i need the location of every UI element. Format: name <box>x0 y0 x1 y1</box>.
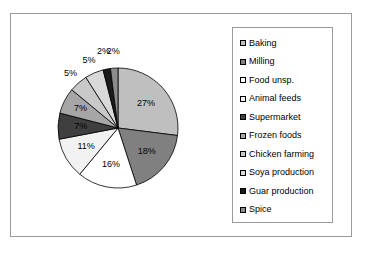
pie-slice-value-label: 18% <box>138 147 156 156</box>
chart-frame: 27%18%16%11%7%7%5%5%2%2% BakingMillingFo… <box>10 13 352 237</box>
legend-item[interactable]: Supermarket <box>240 108 332 127</box>
legend-item-label: Baking <box>249 39 277 48</box>
chart-legend: BakingMillingFood unsp.Animal feedsSuper… <box>232 27 333 223</box>
pie-slice-value-label: 11% <box>77 142 94 151</box>
legend-item[interactable]: Milling <box>240 53 332 72</box>
legend-item[interactable]: Frozen foods <box>240 127 332 146</box>
legend-item[interactable]: Chicken farming <box>240 145 332 164</box>
legend-item[interactable]: Guar production <box>240 182 332 201</box>
legend-item-label: Milling <box>249 57 275 66</box>
legend-item-label: Soya production <box>249 168 314 177</box>
legend-item-label: Spice <box>249 205 272 214</box>
legend-swatch-icon <box>240 188 246 194</box>
legend-swatch-icon <box>240 207 246 213</box>
legend-item[interactable]: Soya production <box>240 164 332 183</box>
legend-swatch-icon <box>240 170 246 176</box>
pie-plot-area: 27%18%16%11%7%7%5%5%2%2% <box>11 14 233 236</box>
legend-swatch-icon <box>240 40 246 46</box>
legend-swatch-icon <box>240 133 246 139</box>
pie-slice-value-label: 7% <box>74 104 87 113</box>
pie-slice-value-label: 16% <box>102 160 120 169</box>
legend-item[interactable]: Animal feeds <box>240 90 332 109</box>
pie-slice-value-label: 5% <box>82 56 95 65</box>
legend-swatch-icon <box>240 77 246 83</box>
pie-slice-value-label: 7% <box>74 122 87 131</box>
legend-item-label: Frozen foods <box>249 131 302 140</box>
pie-slice-value-label: 27% <box>137 99 155 108</box>
legend-item-label: Chicken farming <box>249 150 314 159</box>
legend-swatch-icon <box>240 96 246 102</box>
legend-item[interactable]: Spice <box>240 201 332 220</box>
legend-item-label: Animal feeds <box>249 94 301 103</box>
legend-item-label: Guar production <box>249 187 314 196</box>
legend-swatch-icon <box>240 59 246 65</box>
legend-swatch-icon <box>240 114 246 120</box>
legend-item[interactable]: Baking <box>240 34 332 53</box>
legend-item[interactable]: Food unsp. <box>240 71 332 90</box>
legend-item-label: Supermarket <box>249 113 301 122</box>
pie-slice-value-label: 2% <box>107 47 120 56</box>
pie-slice-value-label: 5% <box>64 69 77 78</box>
legend-swatch-icon <box>240 151 246 157</box>
legend-item-label: Food unsp. <box>249 76 294 85</box>
